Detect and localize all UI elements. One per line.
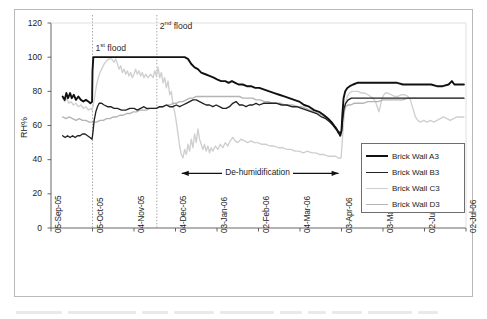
x-axis-tick-label: 05-Sep-05 bbox=[54, 196, 63, 233]
caption-text-fragment bbox=[142, 311, 168, 314]
y-axis-tick-label: 40 bbox=[16, 154, 42, 164]
legend-label: Brick Wall A3 bbox=[392, 152, 439, 161]
dehumidification-annotation-label: De-humidification bbox=[222, 167, 293, 177]
legend-item-brick-wall-b3[interactable]: Brick Wall B3 bbox=[362, 164, 464, 180]
x-axis-tick-label: 03-Jan-06 bbox=[220, 197, 229, 233]
flood-text: flood bbox=[171, 21, 192, 31]
x-axis-tick-label: 04-Mar-06 bbox=[303, 196, 312, 233]
legend-swatch-line bbox=[366, 204, 388, 205]
legend-label: Brick Wall B3 bbox=[392, 168, 439, 177]
x-axis-tick-label: 05-Oct-05 bbox=[96, 197, 105, 233]
x-axis-tick-label: 04-Nov-05 bbox=[137, 196, 146, 233]
y-axis-tick-label: 0 bbox=[16, 223, 42, 233]
caption-text-fragment bbox=[368, 311, 412, 314]
legend-swatch-line bbox=[366, 172, 388, 173]
figure-caption-placeholder bbox=[16, 303, 471, 317]
caption-text-fragment bbox=[16, 311, 62, 314]
chart-legend: Brick Wall A3Brick Wall B3Brick Wall C3B… bbox=[361, 143, 465, 213]
caption-text-fragment bbox=[418, 311, 438, 314]
first-flood-annotation: 1st flood bbox=[96, 42, 126, 53]
legend-item-brick-wall-c3[interactable]: Brick Wall C3 bbox=[362, 180, 464, 196]
legend-label: Brick Wall C3 bbox=[392, 184, 440, 193]
x-axis-tick-label: 02-Feb-06 bbox=[262, 196, 271, 233]
legend-item-brick-wall-d3[interactable]: Brick Wall D3 bbox=[362, 196, 464, 212]
arrow-head-right bbox=[332, 171, 339, 176]
flood-text: flood bbox=[105, 43, 126, 53]
legend-item-brick-wall-a3[interactable]: Brick Wall A3 bbox=[362, 148, 464, 164]
legend-swatch-line bbox=[366, 188, 388, 189]
caption-text-fragment bbox=[174, 311, 214, 314]
legend-swatch-line bbox=[366, 155, 388, 157]
y-axis-tick-label: 120 bbox=[16, 18, 42, 28]
x-axis-tick-label: 02-Jul-06 bbox=[469, 200, 478, 233]
caption-text-fragment bbox=[280, 311, 302, 314]
figure-container: RH% 020406080100120 05-Sep-0505-Oct-0504… bbox=[0, 0, 487, 319]
y-axis-tick-label: 60 bbox=[16, 120, 42, 130]
series-line-brick-wall-a3 bbox=[63, 57, 464, 136]
caption-text-fragment bbox=[220, 311, 274, 314]
series-line-brick-wall-b3 bbox=[63, 98, 464, 139]
y-axis-tick-label: 20 bbox=[16, 188, 42, 198]
x-axis-tick-label: 03-Apr-06 bbox=[345, 197, 354, 233]
caption-text-fragment bbox=[308, 311, 326, 314]
second-flood-annotation: 2nd flood bbox=[160, 20, 193, 31]
series-line-brick-wall-d3 bbox=[63, 96, 464, 134]
x-axis-tick-label: 04-Dec-05 bbox=[179, 196, 188, 233]
legend-label: Brick Wall D3 bbox=[392, 200, 440, 209]
caption-text-fragment bbox=[68, 311, 136, 314]
y-axis-tick-label: 100 bbox=[16, 52, 42, 62]
y-axis-tick-label: 80 bbox=[16, 86, 42, 96]
caption-text-fragment bbox=[332, 311, 362, 314]
arrow-head-left bbox=[182, 171, 189, 176]
